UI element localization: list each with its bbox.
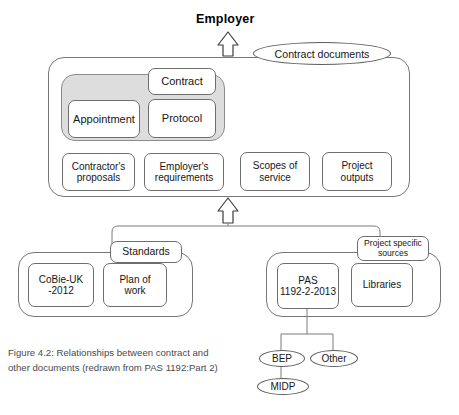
node-employers-requirements[interactable]: Employer's requirements [144,153,224,191]
node-pas-1192-2-2013[interactable]: PAS 1192-2-2013 [277,263,339,309]
node-project-outputs[interactable]: Project outputs [322,152,392,191]
node-midp[interactable]: MIDP [257,378,309,395]
node-scopes-of-service[interactable]: Scopes of service [240,152,310,191]
figure-caption: Figure 4.2: Relationships between contra… [8,346,230,376]
block-arrow-up-icon-sources [218,198,238,223]
node-contractors-proposals[interactable]: Contractor's proposals [62,153,135,191]
node-protocol[interactable]: Protocol [148,99,216,138]
node-cobie-uk-2012[interactable]: CoBie-UK -2012 [28,263,94,307]
node-plan-of-work[interactable]: Plan of work [103,263,167,307]
figure-canvas: Employer Contract documents Contract App… [0,0,459,415]
standards-label[interactable]: Standards [110,241,182,263]
pas-children-connector [281,309,333,378]
project-specific-sources-label[interactable]: Project specific sources [357,236,429,261]
page-title: Employer [196,12,255,26]
node-bep[interactable]: BEP [259,350,305,367]
contract-documents-label: Contract documents [253,42,391,65]
node-contract[interactable]: Contract [148,68,216,95]
node-libraries[interactable]: Libraries [351,263,413,307]
node-appointment[interactable]: Appointment [68,100,140,138]
node-other[interactable]: Other [310,350,358,367]
block-arrow-up-icon-employer [218,32,238,56]
